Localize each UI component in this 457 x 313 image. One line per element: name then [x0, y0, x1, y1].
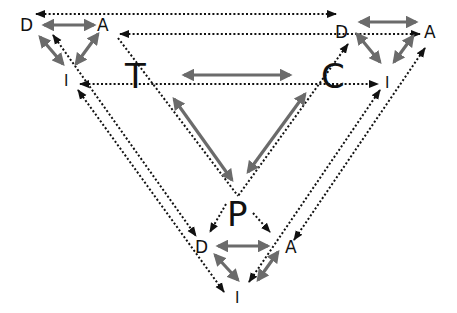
node-left-i: I: [64, 72, 68, 90]
node-c: C: [321, 56, 345, 96]
triangle-diagram: D A I D A I T C P D A I: [0, 0, 457, 313]
arrow-right-a-i: [394, 36, 413, 62]
arrow-right-d-i: [357, 34, 380, 62]
arrow-left-d-i: [40, 37, 63, 64]
dotted-arrow-p-to-d: [210, 204, 226, 232]
dotted-arrow-right-diag-inner: [249, 90, 380, 282]
solid-arrows: [40, 22, 416, 280]
dotted-arrow-left-diag-outer: [78, 90, 224, 292]
node-right-i: I: [385, 74, 389, 92]
arrow-t-p: [174, 99, 232, 180]
node-t: T: [124, 56, 146, 96]
node-right-a: A: [424, 22, 436, 42]
labels: D A I D A I T C P D A I: [20, 15, 436, 307]
node-bottom-a: A: [285, 237, 297, 257]
arrow-bottom-d-i: [215, 255, 238, 280]
node-p: P: [227, 194, 248, 234]
node-left-d: D: [20, 15, 33, 35]
arrow-bottom-a-i: [258, 252, 278, 280]
dotted-arrow-p-to-a: [253, 213, 270, 232]
dotted-connectors: [36, 14, 425, 292]
arrow-c-p: [248, 94, 305, 172]
node-right-d: D: [335, 22, 348, 42]
node-left-a: A: [97, 15, 109, 35]
node-bottom-i: I: [235, 289, 239, 307]
node-bottom-d: D: [195, 237, 208, 257]
arrow-left-a-i: [76, 34, 98, 64]
dotted-arrow-right-diag-outer: [294, 48, 425, 240]
